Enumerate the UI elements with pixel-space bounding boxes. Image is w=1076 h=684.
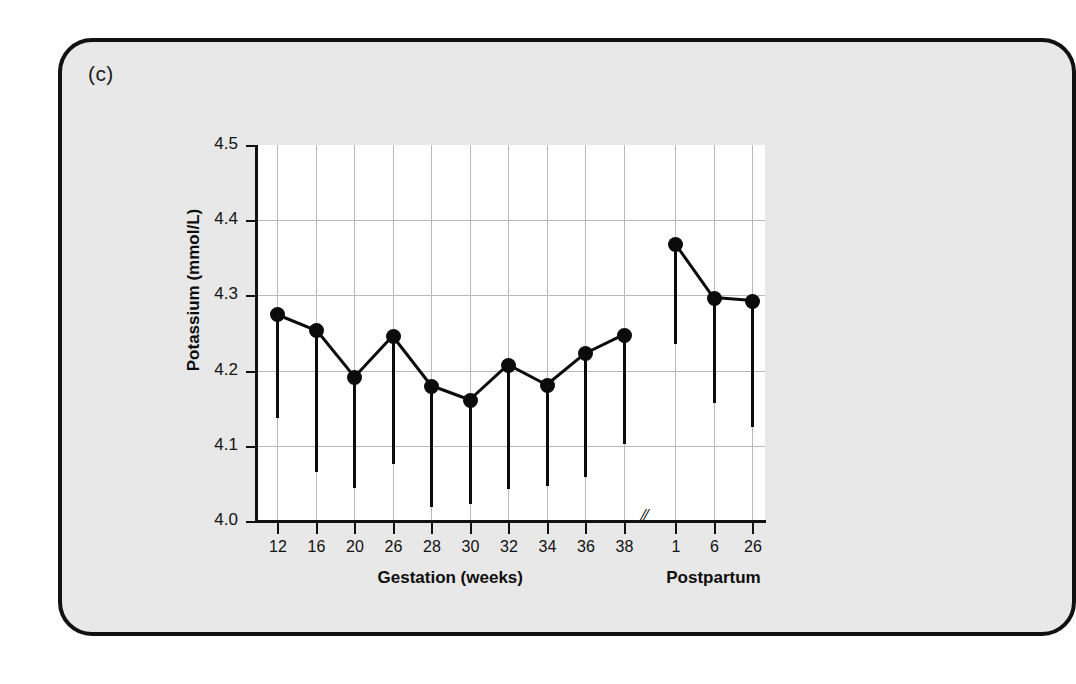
- x-tick-mark: [393, 523, 395, 534]
- y-axis-label: Potassium (mmol/L): [184, 160, 204, 420]
- gridline-horizontal: [255, 295, 765, 296]
- data-point-marker: [501, 358, 516, 373]
- data-point-marker: [707, 291, 722, 306]
- x-tick-label: 16: [297, 538, 337, 556]
- error-bar: [546, 385, 549, 486]
- error-bar: [751, 301, 754, 427]
- y-tick-label: 4.4: [214, 209, 238, 229]
- x-tick-mark: [431, 523, 433, 534]
- panel-label: (c): [88, 62, 114, 86]
- x-tick-mark: [470, 523, 472, 534]
- data-point-marker: [386, 329, 401, 344]
- x-tick-label: 26: [374, 538, 414, 556]
- x-tick-label: 30: [451, 538, 491, 556]
- x-tick-label: 28: [412, 538, 452, 556]
- x-axis-group-label: Gestation (weeks): [378, 568, 524, 588]
- y-tick-mark: [246, 295, 256, 297]
- x-tick-label: 6: [695, 538, 735, 556]
- error-bar: [430, 386, 433, 507]
- x-tick-label: 38: [605, 538, 645, 556]
- y-tick-mark: [246, 521, 256, 523]
- y-tick-mark: [246, 220, 256, 222]
- x-tick-mark: [585, 523, 587, 534]
- x-axis-group-label: Postpartum: [666, 568, 760, 588]
- x-tick-mark: [752, 523, 754, 534]
- chart-plot-wrapper: Potassium (mmol/L) 4.04.14.24.34.44.5 12…: [150, 120, 910, 600]
- error-bar: [507, 365, 510, 490]
- error-bar: [713, 298, 716, 403]
- x-tick-mark: [316, 523, 318, 534]
- error-bar: [353, 377, 356, 488]
- error-bar: [392, 336, 395, 464]
- y-axis-line: [255, 145, 258, 522]
- error-bar: [674, 244, 677, 344]
- x-tick-label: 1: [656, 538, 696, 556]
- data-point-marker: [463, 393, 478, 408]
- axis-break-icon: //: [639, 503, 645, 529]
- x-tick-mark: [508, 523, 510, 534]
- x-tick-label: 32: [489, 538, 529, 556]
- y-tick-label: 4.5: [214, 134, 238, 154]
- gridline-horizontal: [255, 446, 765, 447]
- y-tick-label: 4.3: [214, 284, 238, 304]
- y-tick-label: 4.0: [214, 510, 238, 530]
- x-tick-label: 26: [733, 538, 773, 556]
- data-point-marker: [540, 378, 555, 393]
- error-bar: [315, 330, 318, 472]
- x-axis-line: [255, 520, 766, 523]
- y-tick-mark: [246, 371, 256, 373]
- error-bar: [623, 335, 626, 445]
- x-tick-mark: [624, 523, 626, 534]
- x-tick-mark: [714, 523, 716, 534]
- x-tick-mark: [675, 523, 677, 534]
- x-tick-label: 36: [566, 538, 606, 556]
- data-point-marker: [668, 237, 683, 252]
- x-tick-mark: [277, 523, 279, 534]
- x-tick-label: 20: [335, 538, 375, 556]
- plot-area: [255, 145, 765, 521]
- error-bar: [276, 314, 279, 418]
- gridline-horizontal: [255, 220, 765, 221]
- y-tick-mark: [246, 145, 256, 147]
- error-bar: [469, 400, 472, 504]
- y-tick-mark: [246, 446, 256, 448]
- data-point-marker: [424, 379, 439, 394]
- x-tick-label: 12: [258, 538, 298, 556]
- y-tick-label: 4.1: [214, 435, 238, 455]
- x-tick-mark: [354, 523, 356, 534]
- x-tick-mark: [547, 523, 549, 534]
- x-tick-label: 34: [528, 538, 568, 556]
- data-point-marker: [309, 323, 324, 338]
- data-point-marker: [745, 294, 760, 309]
- data-point-marker: [617, 328, 632, 343]
- y-tick-label: 4.2: [214, 360, 238, 380]
- error-bar: [584, 353, 587, 477]
